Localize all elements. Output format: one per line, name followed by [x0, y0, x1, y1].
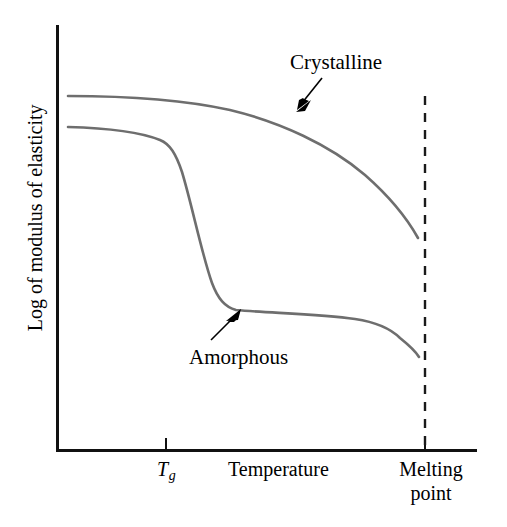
series-label-crystalline: Crystalline	[290, 50, 382, 75]
x-axis-label: Temperature	[228, 458, 329, 482]
curve-crystalline	[68, 96, 418, 238]
melting-label-line2: point	[389, 482, 473, 506]
x-tick-label-glass-transition: Tg	[157, 458, 176, 485]
curve-amorphous	[68, 127, 419, 357]
series-label-amorphous: Amorphous	[189, 345, 288, 370]
crystalline-leader-line	[302, 78, 322, 103]
y-axis-label: Log of modulus of elasticity	[24, 98, 48, 338]
chart-canvas	[0, 0, 507, 527]
x-tick-label-melting-point: Meltingpoint	[389, 458, 473, 505]
glass-transition-symbol: T	[157, 458, 168, 480]
figure-root: Log of modulus of elasticity Tg Temperat…	[0, 0, 507, 527]
glass-transition-subscript: g	[169, 468, 176, 483]
melting-label-line1: Melting	[399, 458, 462, 480]
